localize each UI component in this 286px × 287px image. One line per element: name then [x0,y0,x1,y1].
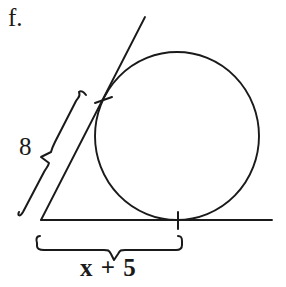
circle-shape [95,52,259,220]
tangent-length-label: 8 [19,134,32,159]
figure-canvas [0,0,286,287]
geometry-figure: f. 8 x + 5 [0,0,286,287]
slanted-ray [41,17,145,220]
item-letter-label: f. [8,5,23,30]
base-length-label: x + 5 [80,255,137,280]
